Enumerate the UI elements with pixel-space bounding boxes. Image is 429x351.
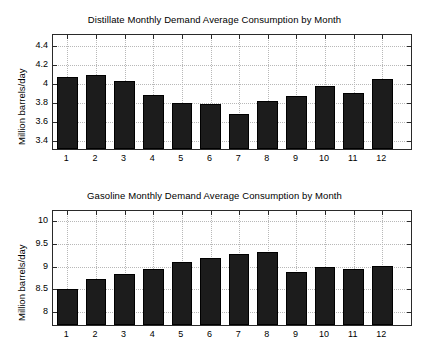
- x-tick-mark: [239, 35, 240, 39]
- y-tick-mark: [407, 103, 411, 104]
- y-tick-label: 4.2: [19, 60, 48, 69]
- y-tick-label: 4: [19, 79, 48, 88]
- y-tick-mark: [53, 46, 57, 47]
- y-tick-label: 3.8: [19, 98, 48, 107]
- bar: [172, 262, 193, 325]
- x-tick-label: 10: [309, 154, 339, 163]
- y-tick-label: 8: [19, 307, 48, 316]
- x-tick-label: 12: [366, 154, 396, 163]
- bar: [372, 79, 393, 149]
- y-tick-mark: [407, 122, 411, 123]
- x-tick-label: 1: [51, 330, 81, 339]
- y-tick-mark: [407, 267, 411, 268]
- x-tick-label: 6: [195, 330, 225, 339]
- chart-title-distillate: Distillate Monthly Demand Average Consum…: [0, 14, 429, 26]
- y-tick-mark: [407, 46, 411, 47]
- x-tick-mark: [125, 211, 126, 215]
- y-tick-mark: [407, 84, 411, 85]
- panel-distillate: Distillate Monthly Demand Average Consum…: [0, 0, 429, 176]
- y-tick-mark: [53, 267, 57, 268]
- x-tick-label: 4: [137, 330, 167, 339]
- x-tick-label: 5: [166, 330, 196, 339]
- x-tick-label: 8: [252, 330, 282, 339]
- y-tick-mark: [407, 65, 411, 66]
- chart-title-gasoline: Gasoline Monthly Demand Average Consumpt…: [0, 190, 429, 202]
- bar: [343, 93, 364, 149]
- bar: [343, 269, 364, 325]
- x-tick-label: 2: [80, 154, 110, 163]
- bar: [200, 104, 221, 149]
- bar: [114, 274, 135, 325]
- x-tick-mark: [67, 35, 68, 39]
- gridline-horizontal: [53, 84, 411, 85]
- x-tick-label: 11: [338, 154, 368, 163]
- bar: [315, 86, 336, 149]
- gridline-horizontal: [53, 65, 411, 66]
- bar: [143, 269, 164, 325]
- y-tick-label: 8.5: [19, 284, 48, 293]
- bar: [143, 95, 164, 149]
- bar: [86, 75, 107, 149]
- x-tick-mark: [153, 35, 154, 39]
- y-tick-label: 9: [19, 262, 48, 271]
- bar: [229, 254, 250, 325]
- plot-area-distillate: [52, 34, 412, 150]
- y-tick-mark: [53, 221, 57, 222]
- x-tick-mark: [268, 211, 269, 215]
- x-tick-mark: [67, 211, 68, 215]
- bar: [57, 289, 78, 325]
- x-tick-label: 4: [137, 154, 167, 163]
- bar: [286, 96, 307, 149]
- plot-area-gasoline: [52, 210, 412, 326]
- y-tick-mark: [53, 244, 57, 245]
- bar: [57, 77, 78, 149]
- bar: [114, 81, 135, 149]
- x-tick-mark: [296, 35, 297, 39]
- x-tick-label: 11: [338, 330, 368, 339]
- x-tick-mark: [354, 35, 355, 39]
- y-tick-label: 3.6: [19, 117, 48, 126]
- x-tick-mark: [239, 211, 240, 215]
- bar: [372, 266, 393, 325]
- x-tick-label: 6: [195, 154, 225, 163]
- x-tick-label: 9: [280, 154, 310, 163]
- figure-two-panel-bar-charts: Distillate Monthly Demand Average Consum…: [0, 0, 429, 351]
- y-tick-label: 4.4: [19, 41, 48, 50]
- x-tick-mark: [268, 35, 269, 39]
- x-tick-mark: [354, 211, 355, 215]
- x-tick-label: 10: [309, 330, 339, 339]
- x-tick-mark: [325, 211, 326, 215]
- x-tick-label: 3: [109, 330, 139, 339]
- x-tick-mark: [325, 35, 326, 39]
- bar: [257, 252, 278, 325]
- x-tick-mark: [382, 35, 383, 39]
- x-tick-mark: [125, 35, 126, 39]
- gridline-horizontal: [53, 46, 411, 47]
- x-tick-label: 2: [80, 330, 110, 339]
- x-tick-label: 7: [223, 154, 253, 163]
- x-tick-label: 12: [366, 330, 396, 339]
- bar: [86, 279, 107, 325]
- bar: [286, 272, 307, 325]
- y-tick-mark: [407, 141, 411, 142]
- y-tick-label: 9.5: [19, 239, 48, 248]
- x-tick-mark: [211, 211, 212, 215]
- bar: [200, 258, 221, 325]
- x-tick-mark: [153, 211, 154, 215]
- x-tick-mark: [211, 35, 212, 39]
- x-tick-label: 8: [252, 154, 282, 163]
- y-tick-label: 10: [19, 216, 48, 225]
- gridline-horizontal: [53, 221, 411, 222]
- y-tick-mark: [407, 244, 411, 245]
- x-tick-label: 1: [51, 154, 81, 163]
- x-tick-mark: [96, 35, 97, 39]
- x-tick-label: 3: [109, 154, 139, 163]
- x-tick-mark: [382, 211, 383, 215]
- bar: [315, 267, 336, 325]
- y-tick-mark: [407, 312, 411, 313]
- bar: [257, 101, 278, 149]
- x-tick-mark: [96, 211, 97, 215]
- x-tick-mark: [296, 211, 297, 215]
- x-tick-label: 7: [223, 330, 253, 339]
- y-tick-mark: [407, 221, 411, 222]
